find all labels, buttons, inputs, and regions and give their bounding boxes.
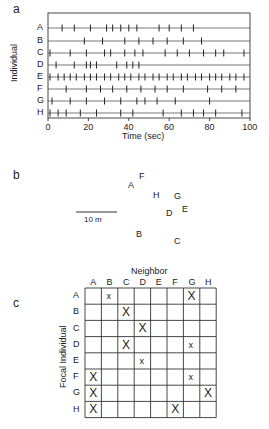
individual-position-B: B: [136, 229, 142, 239]
matrix-cell-mark: X: [171, 402, 179, 416]
row-header-G: G: [73, 387, 80, 397]
matrix-cell-mark: x: [189, 340, 194, 350]
individual-position-G: G: [174, 191, 181, 201]
matrix-cell-mark: x: [189, 372, 194, 382]
x-tick-label: 60: [164, 122, 174, 132]
row-label-B: B: [37, 35, 43, 45]
x-tick-label: 80: [204, 122, 214, 132]
matrix-column-title: Neighbor: [131, 266, 168, 276]
column-header-H: H: [205, 277, 212, 287]
row-header-B: B: [73, 306, 79, 316]
matrix-cell-mark: X: [204, 386, 212, 400]
scale-bar-label: 10 m: [84, 215, 102, 224]
column-header-E: E: [156, 277, 162, 287]
column-header-D: D: [139, 277, 146, 287]
row-header-H: H: [73, 404, 80, 414]
individual-position-F: F: [139, 171, 145, 181]
x-tick-label: 100: [242, 122, 257, 132]
raster-frame: [48, 13, 250, 118]
matrix-cell-mark: X: [138, 321, 146, 335]
row-header-E: E: [73, 355, 79, 365]
y-axis-label: Individual: [9, 44, 19, 82]
individual-position-C: C: [174, 236, 181, 246]
matrix-cell-mark: X: [89, 386, 97, 400]
matrix-cell-mark: X: [89, 402, 97, 416]
row-label-C: C: [37, 47, 44, 57]
matrix-cell-mark: x: [139, 356, 144, 366]
row-label-G: G: [37, 95, 44, 105]
x-tick-label: 0: [45, 122, 50, 132]
x-axis-label: Time (sec): [122, 131, 164, 141]
matrix-cell-mark: x: [107, 291, 112, 301]
row-header-D: D: [73, 339, 80, 349]
column-header-A: A: [90, 277, 96, 287]
column-header-F: F: [172, 277, 178, 287]
row-label-H: H: [37, 107, 44, 117]
column-header-C: C: [123, 277, 130, 287]
x-tick-label: 20: [83, 122, 93, 132]
row-header-F: F: [73, 371, 79, 381]
row-label-E: E: [37, 71, 43, 81]
matrix-cell-mark: X: [122, 305, 130, 319]
matrix-cell-mark: X: [188, 289, 196, 303]
matrix-cell-mark: X: [89, 370, 97, 384]
individual-position-A: A: [128, 180, 134, 190]
row-header-A: A: [73, 290, 79, 300]
row-label-A: A: [37, 22, 43, 32]
row-label-F: F: [37, 83, 43, 93]
row-label-D: D: [37, 59, 44, 69]
matrix-cell-mark: X: [122, 338, 130, 352]
column-header-G: G: [189, 277, 196, 287]
row-header-C: C: [73, 323, 80, 333]
individual-position-E: E: [182, 204, 188, 214]
matrix-row-title: Focal Individual: [58, 325, 68, 388]
individual-position-H: H: [153, 190, 160, 200]
individual-position-D: D: [166, 208, 173, 218]
column-header-B: B: [107, 277, 113, 287]
